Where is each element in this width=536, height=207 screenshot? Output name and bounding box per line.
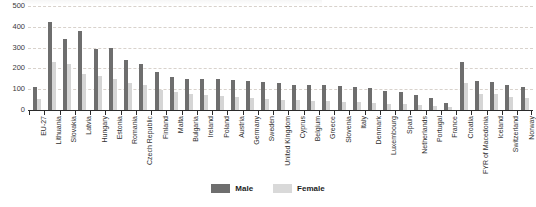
y-axis-tick-label: 400 xyxy=(12,23,25,31)
x-axis-label-cell: Hungary xyxy=(90,116,105,178)
legend-swatch-male xyxy=(211,184,230,193)
x-axis-tick xyxy=(151,110,166,115)
bar-female xyxy=(143,85,147,110)
bar-female xyxy=(67,64,71,110)
x-axis-tick xyxy=(410,110,425,115)
x-axis-tick xyxy=(197,110,212,115)
bar-group xyxy=(151,6,166,110)
bar-group xyxy=(395,6,410,110)
x-axis-tick xyxy=(395,110,410,115)
bar-group xyxy=(471,6,486,110)
bar-group xyxy=(426,6,441,110)
bar-group xyxy=(258,6,273,110)
bar-female xyxy=(357,102,361,110)
x-axis-tick xyxy=(121,110,136,115)
x-axis-label-cell: Switzerland xyxy=(502,116,517,178)
chart-legend: MaleFemale xyxy=(0,184,536,193)
x-axis-tick xyxy=(380,110,395,115)
x-axis-label-cell: Slovenia xyxy=(334,116,349,178)
x-axis-label-cell: Finland xyxy=(151,116,166,178)
x-axis-label-cell: Netherlands xyxy=(410,116,425,178)
bar-female xyxy=(189,94,193,110)
x-axis-tick xyxy=(60,110,75,115)
x-axis-label-cell: Lithuania xyxy=(44,116,59,178)
x-axis-label-cell: FYR of Macedonia xyxy=(471,116,486,178)
y-axis-tick-label: 300 xyxy=(12,44,25,52)
x-axis-tick xyxy=(182,110,197,115)
x-axis-tick xyxy=(365,110,380,115)
top-edge-artifact xyxy=(22,0,322,5)
x-axis-label-cell: Germany xyxy=(243,116,258,178)
bar-group xyxy=(197,6,212,110)
bar-group xyxy=(380,6,395,110)
bar-female xyxy=(128,83,132,110)
legend-item-male[interactable]: Male xyxy=(211,184,253,193)
bar-group xyxy=(44,6,59,110)
bar-female xyxy=(296,100,300,110)
x-axis-tick xyxy=(136,110,151,115)
x-axis-tick xyxy=(456,110,471,115)
x-axis-label-cell: Ireland xyxy=(197,116,212,178)
x-axis-label-cell: Iceland xyxy=(487,116,502,178)
bar-group xyxy=(288,6,303,110)
bar-group xyxy=(29,6,44,110)
bar-chart: 0100200300400500 EU-27LithuaniaSlovakiaL… xyxy=(0,0,536,207)
plot-frame: 0100200300400500 xyxy=(0,6,536,110)
bar-female xyxy=(220,96,224,110)
plot-area xyxy=(28,6,533,110)
legend-item-female[interactable]: Female xyxy=(273,184,325,193)
bar-group xyxy=(136,6,151,110)
x-axis-label-cell: Estonia xyxy=(105,116,120,178)
x-axis-label: Norway xyxy=(528,116,535,140)
bar-female xyxy=(525,98,529,110)
bar-female xyxy=(311,101,315,110)
x-axis-label-cell: Cyprus xyxy=(288,116,303,178)
x-axis-tick xyxy=(288,110,303,115)
x-axis-tick xyxy=(426,110,441,115)
y-axis-tick-label: 100 xyxy=(12,85,25,93)
bar-group xyxy=(502,6,517,110)
bar-female xyxy=(509,97,513,110)
x-axis-tick xyxy=(212,110,227,115)
bar-group xyxy=(273,6,288,110)
x-axis-label-cell: Bulgaria xyxy=(182,116,197,178)
y-axis: 0100200300400500 xyxy=(0,6,28,110)
legend-label: Male xyxy=(235,184,253,193)
bar-group xyxy=(441,6,456,110)
bar-female xyxy=(204,95,208,110)
bar-group xyxy=(456,6,471,110)
x-axis-tick xyxy=(304,110,319,115)
bar-female xyxy=(479,94,483,110)
bar-female xyxy=(159,90,163,110)
bar-female xyxy=(494,94,498,110)
bar-female xyxy=(235,97,239,110)
bar-female xyxy=(37,99,41,110)
x-axis-tick xyxy=(243,110,258,115)
bar-group xyxy=(243,6,258,110)
x-axis-tick xyxy=(90,110,105,115)
bar-group xyxy=(334,6,349,110)
x-axis-tick xyxy=(502,110,517,115)
x-axis-label-cell: Romania xyxy=(121,116,136,178)
bar-group xyxy=(410,6,425,110)
bar-group xyxy=(212,6,227,110)
bar-group xyxy=(319,6,334,110)
bar-female xyxy=(372,103,376,110)
y-axis-tick-label: 200 xyxy=(12,64,25,72)
bar-female xyxy=(281,100,285,110)
x-axis-tick xyxy=(319,110,334,115)
x-axis-label-cell: Austria xyxy=(227,116,242,178)
x-axis-label-cell: Sweden xyxy=(258,116,273,178)
bar-group xyxy=(75,6,90,110)
bar-female xyxy=(250,98,254,110)
bar-group xyxy=(182,6,197,110)
y-axis-tick-label: 0 xyxy=(21,106,25,114)
x-axis-tick xyxy=(29,110,44,115)
x-axis-label-cell: Czech Republic xyxy=(136,116,151,178)
y-axis-tick-label: 500 xyxy=(12,2,25,10)
bar-group xyxy=(105,6,120,110)
bar-female xyxy=(113,79,117,110)
x-axis-tick xyxy=(517,110,532,115)
bar-group xyxy=(349,6,364,110)
x-axis-label-cell: Italy xyxy=(349,116,364,178)
